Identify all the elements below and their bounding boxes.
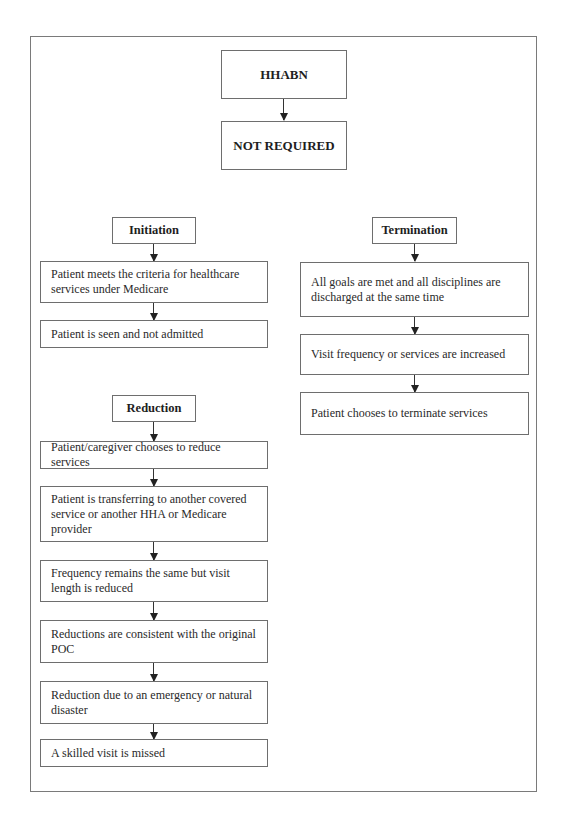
termination-item-3-text: Patient chooses to terminate services xyxy=(311,406,488,421)
arrow-down-icon xyxy=(153,724,154,739)
hhabn-title: HHABN xyxy=(260,67,308,82)
termination-item-1-text: All goals are met and all disciplines ar… xyxy=(311,275,518,305)
termination-item-1: All goals are met and all disciplines ar… xyxy=(300,262,529,317)
termination-item-2: Visit frequency or services are increase… xyxy=(300,334,529,375)
arrow-down-icon xyxy=(153,663,154,681)
arrow-down-icon xyxy=(414,244,415,261)
reduction-item-1-text: Patient/caregiver chooses to reduce serv… xyxy=(51,440,257,470)
reduction-item-2-text: Patient is transferring to another cover… xyxy=(51,492,257,537)
initiation-header: Initiation xyxy=(112,217,196,244)
hhabn-box: HHABN xyxy=(221,50,347,99)
reduction-item-3-text: Frequency remains the same but visit len… xyxy=(51,566,257,596)
arrow-down-icon xyxy=(153,422,154,441)
arrow-down-icon xyxy=(153,244,154,261)
termination-item-3: Patient chooses to terminate services xyxy=(300,392,529,435)
reduction-item-1: Patient/caregiver chooses to reduce serv… xyxy=(40,441,268,469)
termination-header-label: Termination xyxy=(381,223,447,238)
arrow-down-icon xyxy=(153,542,154,560)
arrow-down-icon xyxy=(153,469,154,486)
reduction-item-5: Reduction due to an emergency or natural… xyxy=(40,681,268,724)
arrow-down-icon xyxy=(414,317,415,334)
initiation-item-2: Patient is seen and not admitted xyxy=(40,320,268,348)
arrow-down-icon xyxy=(153,303,154,320)
reduction-item-5-text: Reduction due to an emergency or natural… xyxy=(51,688,257,718)
reduction-item-2: Patient is transferring to another cover… xyxy=(40,486,268,542)
termination-header: Termination xyxy=(372,217,457,244)
initiation-header-label: Initiation xyxy=(129,223,179,238)
reduction-item-4: Reductions are consistent with the origi… xyxy=(40,620,268,663)
initiation-item-2-text: Patient is seen and not admitted xyxy=(51,327,203,342)
reduction-header: Reduction xyxy=(112,395,196,422)
initiation-item-1-text: Patient meets the criteria for healthcar… xyxy=(51,267,257,297)
reduction-item-6-text: A skilled visit is missed xyxy=(51,746,165,761)
reduction-item-6: A skilled visit is missed xyxy=(40,739,268,767)
reduction-item-3: Frequency remains the same but visit len… xyxy=(40,560,268,602)
arrow-down-icon xyxy=(153,602,154,620)
arrow-down-icon xyxy=(414,375,415,392)
initiation-item-1: Patient meets the criteria for healthcar… xyxy=(40,261,268,303)
reduction-item-4-text: Reductions are consistent with the origi… xyxy=(51,627,257,657)
not-required-box: NOT REQUIRED xyxy=(221,121,347,170)
arrow-down-icon xyxy=(283,99,284,120)
reduction-header-label: Reduction xyxy=(127,401,182,416)
not-required-label: NOT REQUIRED xyxy=(233,138,334,153)
termination-item-2-text: Visit frequency or services are increase… xyxy=(311,347,505,362)
